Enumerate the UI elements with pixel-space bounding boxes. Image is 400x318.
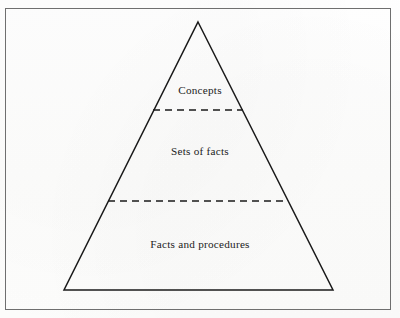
pyramid-graphic bbox=[0, 0, 400, 318]
tier-label-sets-of-facts: Sets of facts bbox=[0, 146, 400, 157]
tier-label-concepts: Concepts bbox=[0, 85, 400, 96]
pyramid-figure: Concepts Sets of facts Facts and procedu… bbox=[0, 0, 400, 318]
tier-label-facts-and-procedures: Facts and procedures bbox=[0, 239, 400, 250]
